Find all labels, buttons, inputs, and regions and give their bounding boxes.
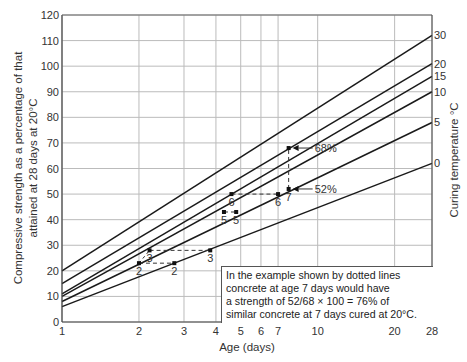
point-label: 6 (228, 196, 234, 208)
x-axis-label: Age (days) (219, 341, 275, 353)
temperature-label: 5 (434, 116, 440, 128)
point-label: 5 (233, 214, 239, 226)
y-tick-label: 120 (41, 9, 59, 21)
point-label: 5 (221, 214, 227, 226)
point-label: 7 (286, 191, 292, 203)
temperature-label: 15 (434, 70, 446, 82)
point-label: 2 (171, 265, 177, 277)
note-line: a strength of 52/68 × 100 = 76% of (226, 295, 429, 308)
note-line: similar concrete at 7 days cured at 20°C… (226, 308, 429, 321)
note-line: In the example shown by dotted lines (226, 269, 429, 282)
percentage-annotation: 52% (315, 183, 337, 195)
y-tick-label: 80 (47, 111, 59, 123)
y-axis-label: Compressive strength as a percentage of … (12, 51, 39, 284)
y2-axis-label: Curing temperature °C (448, 102, 460, 217)
x-tick-label: 20 (389, 325, 401, 337)
example-points: 22335566768%52% (136, 142, 337, 277)
note-line: concrete at age 7 days would have (226, 282, 429, 295)
temperature-label: 30 (434, 29, 446, 41)
y-tick-label: 40 (47, 214, 59, 226)
svg-text:attained at 28 days at 20°C: attained at 28 days at 20°C (27, 99, 39, 238)
x-tick-label: 3 (181, 325, 187, 337)
y-tick-label: 50 (47, 188, 59, 200)
y-tick-label: 100 (41, 60, 59, 72)
x-tick-label: 7 (275, 325, 281, 337)
point-label: 2 (136, 265, 142, 277)
x-tick-label: 2 (136, 325, 142, 337)
x-tick-label: 6 (258, 325, 264, 337)
example-dotted-lines (139, 148, 289, 263)
x-tick-label: 10 (312, 325, 324, 337)
point-label: 3 (207, 252, 213, 264)
temperature-label: 10 (434, 86, 446, 98)
point-label: 6 (275, 196, 281, 208)
temperature-label: 20 (434, 58, 446, 70)
percentage-annotation: 68% (315, 142, 337, 154)
x-tick-label: 28 (426, 325, 438, 337)
example-note: In the example shown by dotted lines con… (221, 266, 433, 323)
point-label: 3 (146, 252, 152, 264)
y-tick-label: 110 (41, 35, 59, 47)
example-point (287, 146, 291, 150)
y-tick-label: 60 (47, 163, 59, 175)
x-tick-label: 1 (59, 325, 65, 337)
y-tick-label: 10 (47, 290, 59, 302)
y-tick-label: 20 (47, 265, 59, 277)
temperature-label: 0 (434, 157, 440, 169)
x-tick-label: 4 (213, 325, 219, 337)
y-tick-label: 90 (47, 86, 59, 98)
y-tick-label: 30 (47, 239, 59, 251)
x-tick-label: 5 (238, 325, 244, 337)
temperature-line (62, 64, 432, 284)
svg-text:Compressive strength as a perc: Compressive strength as a percentage of … (12, 51, 24, 284)
y-tick-label: 70 (47, 137, 59, 149)
